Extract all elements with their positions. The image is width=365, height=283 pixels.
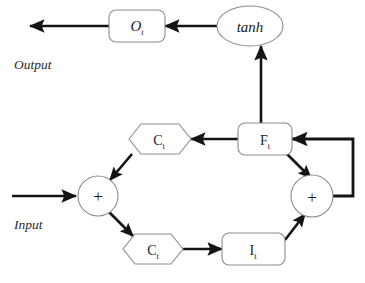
diagram-canvas: Ot tanh Ct Ft + (0, 0, 365, 283)
edge-adder-left-to-cell-bottom (109, 212, 133, 236)
input-label: Input (13, 217, 44, 232)
edge-input-gate-to-adder-right (285, 214, 305, 240)
cell-state-top-label: C (153, 133, 162, 148)
node-cell-state-top[interactable]: Ct (129, 124, 191, 154)
output-gate-label: O (130, 18, 141, 34)
cell-state-bottom-label: C (147, 243, 156, 258)
adder-right-label: + (307, 188, 317, 207)
node-input-gate[interactable]: It (222, 233, 285, 265)
lstm-diagram: Ot tanh Ct Ft + (0, 0, 365, 283)
edge-forget-to-adder-right (285, 152, 311, 178)
node-tanh[interactable]: tanh (217, 6, 283, 46)
output-label: Output (14, 57, 53, 72)
node-output-gate[interactable]: Ot (109, 10, 165, 42)
adder-left-label: + (93, 187, 103, 206)
node-adder-left[interactable]: + (78, 176, 118, 216)
forget-gate-label: F (260, 133, 268, 148)
node-cell-state-bottom[interactable]: Ct (123, 234, 183, 264)
node-adder-right[interactable]: + (291, 175, 333, 217)
tanh-label: tanh (237, 19, 264, 35)
node-forget-gate[interactable]: Ft (238, 123, 292, 155)
edge-cell-top-to-adder-left (110, 154, 132, 180)
